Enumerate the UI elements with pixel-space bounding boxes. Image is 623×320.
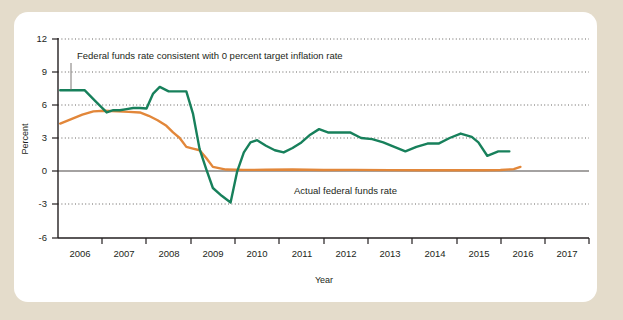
x-axis-title: Year xyxy=(315,275,333,285)
x-tick-label-2007: 2007 xyxy=(113,248,134,259)
gridlines-group xyxy=(58,39,589,204)
x-tick-marks xyxy=(102,238,589,244)
x-tick-label-2014: 2014 xyxy=(424,248,445,259)
x-tick-label-2006: 2006 xyxy=(69,248,90,259)
y-tick-label-0: 0 xyxy=(42,165,47,176)
x-tick-labels: 2006 2007 2008 2009 2010 2011 2012 2013 … xyxy=(69,248,577,259)
x-tick-label-2017: 2017 xyxy=(556,248,577,259)
y-tick-label-12: 12 xyxy=(36,33,47,44)
x-tick-label-2012: 2012 xyxy=(335,248,356,259)
series-line-taylor-rule xyxy=(60,87,509,203)
x-tick-label-2010: 2010 xyxy=(246,248,267,259)
annotation-taylor-rule-label: Federal funds rate consistent with 0 per… xyxy=(77,50,343,61)
x-tick-label-2015: 2015 xyxy=(468,248,489,259)
series-line-actual-federal-funds-rate xyxy=(60,111,520,170)
y-tick-label-minus6: -6 xyxy=(39,232,47,243)
annotation-actual-rate-label: Actual federal funds rate xyxy=(294,185,397,196)
y-tick-label-9: 9 xyxy=(42,66,47,77)
y-tick-label-6: 6 xyxy=(42,99,47,110)
x-tick-label-2016: 2016 xyxy=(512,248,533,259)
chart-card: 12 9 6 3 0 -3 -6 xyxy=(14,12,597,302)
y-tick-label-minus3: -3 xyxy=(39,198,47,209)
y-tick-labels: 12 9 6 3 0 -3 -6 xyxy=(36,33,47,243)
y-tick-label-3: 3 xyxy=(42,132,47,143)
y-tick-marks xyxy=(52,39,58,238)
x-tick-label-2008: 2008 xyxy=(158,248,179,259)
federal-funds-rate-chart: 12 9 6 3 0 -3 -6 xyxy=(14,12,597,302)
figure-root: 12 9 6 3 0 -3 -6 xyxy=(0,0,623,320)
y-axis-title: Percent xyxy=(20,123,30,155)
x-tick-label-2011: 2011 xyxy=(292,248,312,259)
x-tick-label-2013: 2013 xyxy=(379,248,400,259)
x-tick-label-2009: 2009 xyxy=(202,248,223,259)
